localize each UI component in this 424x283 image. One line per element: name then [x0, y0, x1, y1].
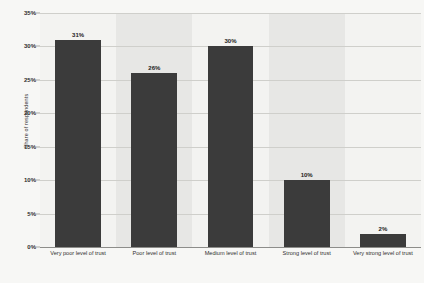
x-axis-category-label: Very strong level of trust — [345, 250, 421, 258]
y-axis-tick-label: 30% — [2, 43, 36, 49]
bar: 2% — [360, 234, 406, 247]
y-axis-tick-label: 5% — [2, 211, 36, 217]
bar-value-label: 2% — [379, 226, 388, 232]
y-axis-tick-mark — [36, 79, 40, 80]
bar-slot: 2% — [345, 13, 421, 247]
bar-value-label: 10% — [301, 172, 313, 178]
y-axis-tick-mark — [36, 213, 40, 214]
bar-value-label: 26% — [148, 65, 160, 71]
x-axis-category-label: Medium level of trust — [192, 250, 268, 258]
y-axis-tick-mark — [36, 13, 40, 14]
bar-slot: 30% — [192, 13, 268, 247]
y-axis-tick-label: 35% — [2, 10, 36, 16]
y-axis-tick-label: 0% — [2, 244, 36, 250]
bar: 31% — [55, 40, 101, 247]
bar-value-label: 30% — [224, 38, 236, 44]
x-axis-category-label: Very poor level of trust — [40, 250, 116, 258]
x-axis-labels: Very poor level of trustPoor level of tr… — [40, 250, 421, 258]
bar-chart: Share of respondents 31%26%30%10%2% 35%3… — [0, 0, 424, 283]
bar: 30% — [208, 46, 254, 247]
x-axis-category-label: Strong level of trust — [269, 250, 345, 258]
y-axis-tick-mark — [36, 46, 40, 47]
y-axis-tick-mark — [36, 247, 40, 248]
y-axis-tick-label: 20% — [2, 110, 36, 116]
y-axis-tick-label: 10% — [2, 177, 36, 183]
bar: 26% — [131, 73, 177, 247]
y-axis-tick-mark — [36, 113, 40, 114]
plot-area: 31%26%30%10%2% — [40, 13, 421, 247]
y-axis-tick-mark — [36, 146, 40, 147]
bar-slot: 26% — [116, 13, 192, 247]
y-axis-tick-label: 15% — [2, 144, 36, 150]
y-axis-tick-label: 25% — [2, 77, 36, 83]
bar: 10% — [284, 180, 330, 247]
bar-slot: 10% — [269, 13, 345, 247]
x-axis-line — [40, 247, 421, 248]
bar-series: 31%26%30%10%2% — [40, 13, 421, 247]
bar-value-label: 31% — [72, 32, 84, 38]
y-axis-tick-mark — [36, 180, 40, 181]
bar-slot: 31% — [40, 13, 116, 247]
x-axis-category-label: Poor level of trust — [116, 250, 192, 258]
